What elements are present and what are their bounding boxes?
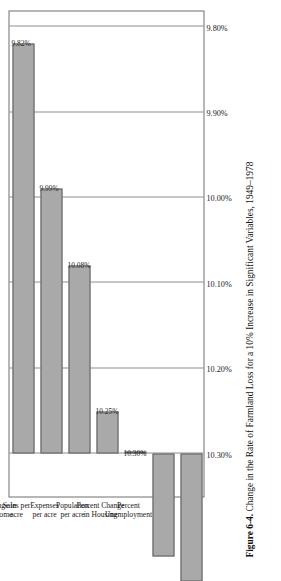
category-axis: HarvestedCroplandAcresPercent Change inM… bbox=[8, 497, 204, 565]
bar-row: 9.99% bbox=[37, 11, 65, 496]
axis-tick-label: 9.90% bbox=[206, 109, 227, 117]
bar-row bbox=[177, 11, 205, 496]
bar-chart: HarvestedCroplandAcresPercent Change inM… bbox=[0, 0, 236, 565]
figure-number: Figure 6-4. bbox=[244, 513, 254, 557]
axis-tick-label: 10.00% bbox=[206, 194, 231, 202]
bar bbox=[68, 265, 90, 453]
bar-row: 10.30% bbox=[121, 11, 149, 496]
bar bbox=[12, 43, 34, 453]
figure-caption: Figure 6-4. Change in the Rate of Farmla… bbox=[244, 7, 255, 557]
bar-value-label: 10.25% bbox=[95, 407, 118, 414]
bars-group: 9.82%9.99%10.08%10.25%10.30% bbox=[9, 11, 203, 496]
axis-tick-label: 10.30% bbox=[206, 451, 231, 459]
category-label: PercentUnemployment bbox=[97, 501, 159, 518]
bar bbox=[152, 453, 174, 556]
category-label-line: Percent bbox=[97, 501, 159, 510]
category-label-line: Unemployment bbox=[97, 510, 159, 519]
bar-value-label: 10.30% bbox=[123, 449, 146, 456]
bar-row: 10.08% bbox=[65, 11, 93, 496]
bar-value-label: 9.82% bbox=[11, 39, 30, 46]
axis-tick-label: 10.10% bbox=[206, 280, 231, 288]
bar-row: 10.25% bbox=[93, 11, 121, 496]
bar bbox=[96, 411, 118, 454]
value-axis: 10.30%10.20%10.10%10.00%9.90%9.80% bbox=[206, 10, 236, 497]
bar-row bbox=[149, 11, 177, 496]
bar-row: 9.82% bbox=[9, 11, 37, 496]
plot-area: 9.82%9.99%10.08%10.25%10.30% bbox=[8, 10, 204, 497]
axis-tick-label: 10.20% bbox=[206, 365, 231, 373]
axis-tick-label: 9.80% bbox=[206, 24, 227, 32]
bar bbox=[180, 453, 202, 581]
bar-value-label: 9.99% bbox=[39, 184, 58, 191]
bar bbox=[40, 188, 62, 453]
figure-caption-text: Change in the Rate of Farmland Loss for … bbox=[244, 161, 254, 511]
bar-value-label: 10.08% bbox=[67, 261, 90, 268]
